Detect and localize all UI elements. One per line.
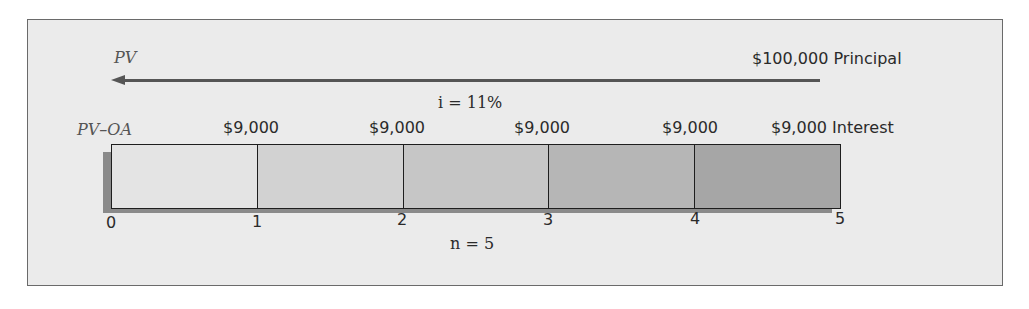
timeline-bar xyxy=(111,144,841,209)
payment-label-4: $9,000 xyxy=(662,120,718,136)
periods-label: n = 5 xyxy=(450,236,494,252)
principal-text: Principal xyxy=(833,49,901,68)
tick-5: 5 xyxy=(835,211,845,227)
payment-amount-5: $9,000 xyxy=(771,118,827,137)
period-segment-5 xyxy=(695,145,840,208)
interest-rate: i = 11% xyxy=(438,95,502,111)
period-segment-4 xyxy=(549,145,695,208)
tick-2: 2 xyxy=(397,212,407,228)
principal-label: $100,000 Principal xyxy=(752,51,902,67)
period-segment-1 xyxy=(112,145,258,208)
period-segment-2 xyxy=(258,145,404,208)
principal-amount: $100,000 xyxy=(752,49,828,68)
payment-label-3: $9,000 xyxy=(514,120,570,136)
payment-label-1: $9,000 xyxy=(223,120,279,136)
payment-label-2: $9,000 xyxy=(369,120,425,136)
pv-arrow-line xyxy=(120,79,820,82)
pv-label: PV xyxy=(114,50,136,66)
tick-0: 0 xyxy=(106,215,116,231)
tick-4: 4 xyxy=(690,211,700,227)
interest-text: Interest xyxy=(832,118,894,137)
tick-1: 1 xyxy=(252,214,262,230)
payment-label-5: $9,000 Interest xyxy=(771,120,894,136)
tick-3: 3 xyxy=(543,212,553,228)
period-segment-3 xyxy=(404,145,550,208)
pv-oa-label: PV–OA xyxy=(77,122,132,138)
